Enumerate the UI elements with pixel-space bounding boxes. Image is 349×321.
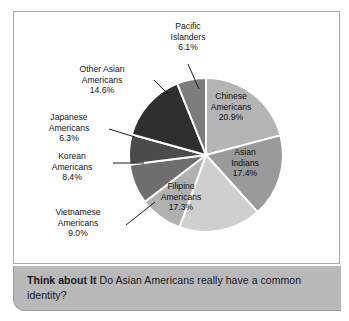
caption-lead-label: Think about It	[27, 274, 97, 286]
think-about-it-caption: Think about ItDo Asian Americans really …	[13, 266, 341, 311]
pie-chart-area: Chinese Americans 20.9% Asian Indians 17…	[13, 11, 341, 265]
slice-label-japanese-americans: Japanese Americans 6.3%	[29, 112, 109, 144]
pie-chart-figure: Chinese Americans 20.9% Asian Indians 17…	[0, 0, 349, 321]
slice-label-pacific-islanders: Pacific Islanders 6.1%	[150, 21, 226, 53]
slice-label-chinese-americans: Chinese Americans 20.9%	[189, 91, 273, 123]
caption-text: Think about ItDo Asian Americans really …	[27, 273, 331, 303]
slice-label-filipino-americans: Filipino Americans 17.3%	[141, 181, 221, 213]
slice-label-korean-americans: Korean Americans 8.4%	[33, 151, 111, 183]
slice-label-other-asian-americans: Other Asian Americans 14.6%	[55, 64, 149, 96]
slice-label-vietnamese-americans: Vietnamese Americans 9.0%	[31, 207, 125, 239]
leader-line-japanese-americans	[109, 129, 135, 137]
slice-label-asian-indians: Asian Indians 17.4%	[209, 147, 281, 179]
